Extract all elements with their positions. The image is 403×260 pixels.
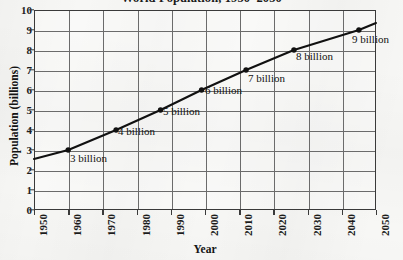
gridline-vertical	[309, 11, 310, 209]
x-tick-mark	[205, 210, 206, 215]
gridline-vertical	[240, 11, 241, 209]
data-point-label: 4 billion	[118, 126, 155, 137]
x-tick-label: 1980	[141, 214, 152, 236]
gridline-vertical	[343, 11, 344, 209]
data-point-label: 9 billion	[352, 34, 389, 45]
y-tick-mark	[29, 89, 34, 90]
y-axis-label: Population (billions)	[8, 46, 20, 186]
x-tick-label: 1950	[38, 214, 49, 236]
gridline-vertical	[103, 11, 104, 209]
y-tick-mark	[29, 29, 34, 30]
gridline-horizontal	[35, 71, 375, 72]
y-tick-mark	[29, 149, 34, 150]
x-tick-mark	[137, 210, 138, 215]
y-tick-mark	[29, 49, 34, 50]
gridline-horizontal	[35, 191, 375, 192]
data-point-label: 7 billion	[248, 73, 285, 84]
gridline-vertical	[274, 11, 275, 209]
data-point-label: 5 billion	[163, 106, 200, 117]
y-tick-mark	[29, 169, 34, 170]
x-tick-mark	[273, 210, 274, 215]
gridline-vertical	[69, 11, 70, 209]
y-tick-mark	[29, 109, 34, 110]
chart-title: World Population, 1950–2050	[0, 0, 403, 6]
x-tick-label: 2040	[346, 214, 357, 236]
x-tick-mark	[376, 210, 377, 215]
gridline-horizontal	[35, 111, 375, 112]
x-tick-label: 1960	[72, 214, 83, 236]
x-tick-mark	[34, 210, 35, 215]
x-tick-label: 1970	[106, 214, 117, 236]
y-tick-mark	[29, 69, 34, 70]
plot-area	[34, 10, 376, 210]
x-tick-label: 2030	[312, 214, 323, 236]
x-tick-mark	[342, 210, 343, 215]
data-point-label: 3 billion	[70, 153, 107, 164]
gridline-horizontal	[35, 31, 375, 32]
x-tick-mark	[102, 210, 103, 215]
x-axis-label: Year	[34, 243, 376, 255]
x-tick-mark	[308, 210, 309, 215]
chart-page: World Population, 1950–2050 012345678910…	[0, 0, 403, 260]
y-tick-mark	[29, 189, 34, 190]
gridline-vertical	[138, 11, 139, 209]
y-tick-mark	[29, 129, 34, 130]
x-tick-label: 2020	[277, 214, 288, 236]
gridline-vertical	[206, 11, 207, 209]
x-tick-mark	[68, 210, 69, 215]
x-tick-label: 2000	[209, 214, 220, 236]
y-tick-mark	[29, 9, 34, 10]
x-tick-label: 2050	[380, 214, 391, 236]
x-tick-mark	[239, 210, 240, 215]
gridline-horizontal	[35, 131, 375, 132]
x-tick-mark	[171, 210, 172, 215]
data-point-label: 8 billion	[296, 51, 333, 62]
gridline-horizontal	[35, 171, 375, 172]
x-tick-label: 1990	[175, 214, 186, 236]
x-tick-label: 2010	[243, 214, 254, 236]
data-point-label: 6 billion	[205, 85, 242, 96]
